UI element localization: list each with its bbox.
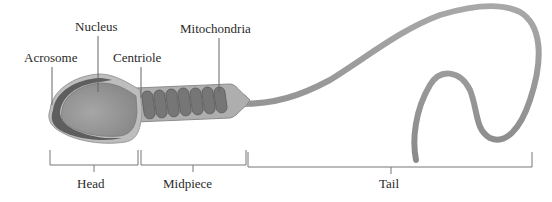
- tail-bracket: [248, 152, 532, 174]
- sperm-head: [49, 74, 142, 143]
- label-nucleus: Nucleus: [75, 20, 118, 33]
- region-brackets: [50, 150, 532, 174]
- label-head: Head: [77, 177, 104, 190]
- midpiece-body: [136, 84, 250, 122]
- label-centriole: Centriole: [113, 51, 161, 64]
- head-bracket: [50, 150, 138, 172]
- label-acrosome: Acrosome: [24, 51, 77, 64]
- label-mitochondria: Mitochondria: [180, 22, 251, 35]
- label-tail: Tail: [379, 177, 399, 190]
- label-midpiece: Midpiece: [163, 177, 212, 190]
- tail-flagellum: [240, 6, 539, 160]
- midpiece-bracket: [141, 150, 246, 172]
